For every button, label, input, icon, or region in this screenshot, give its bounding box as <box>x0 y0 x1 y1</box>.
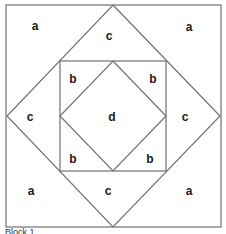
label-b-top-right: b <box>149 73 156 85</box>
caption: Block 1 <box>5 228 35 234</box>
label-b-bottom-left: b <box>69 153 76 165</box>
label-a-bottom-right: a <box>186 185 193 197</box>
label-c-bottom: c <box>105 185 112 197</box>
label-c-left: c <box>27 111 34 123</box>
label-c-right: c <box>182 111 189 123</box>
label-a-top-right: a <box>186 21 193 33</box>
label-b-top-left: b <box>69 73 76 85</box>
label-a-top-left: a <box>32 20 39 32</box>
label-d-center: d <box>108 111 115 123</box>
label-b-bottom-right: b <box>146 153 153 165</box>
label-a-bottom-left: a <box>28 185 35 197</box>
label-c-top: c <box>106 30 113 42</box>
